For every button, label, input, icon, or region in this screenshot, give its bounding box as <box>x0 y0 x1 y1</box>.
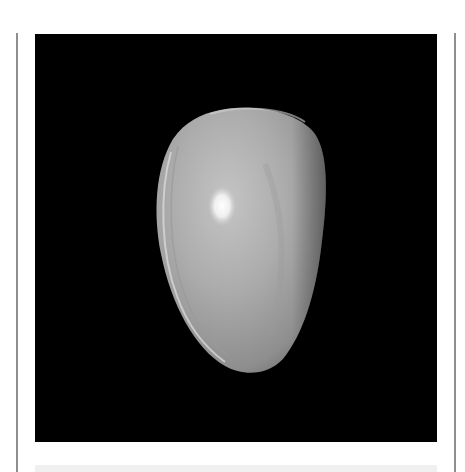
caption-strip <box>35 465 437 472</box>
shell-highlight <box>208 186 236 226</box>
frame-left-border <box>16 33 18 472</box>
image-viewer-page <box>0 0 465 472</box>
cowrie-shell-image <box>35 34 437 442</box>
shell-photo[interactable] <box>35 34 437 442</box>
frame-right-border <box>454 33 456 472</box>
